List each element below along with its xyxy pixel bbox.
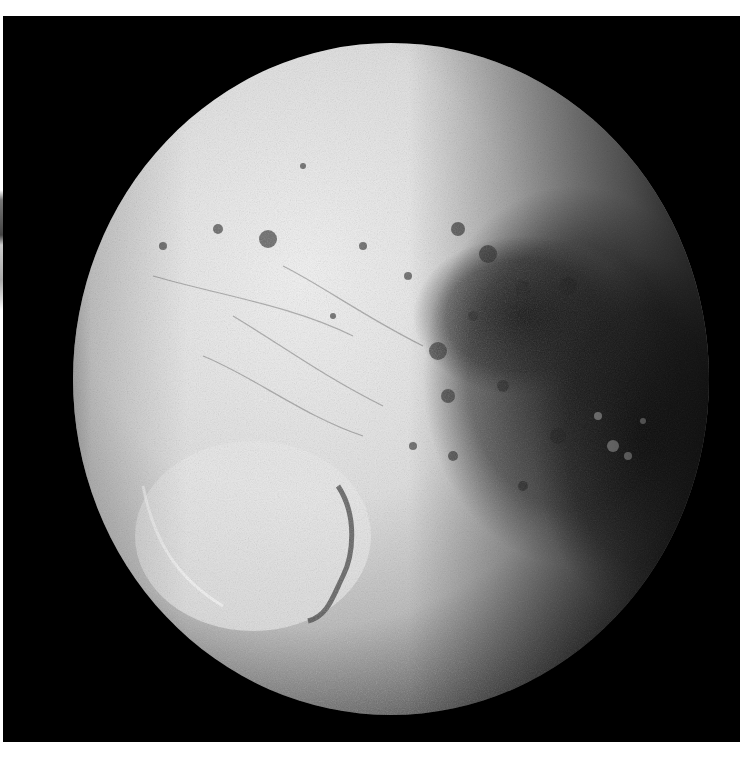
photo-frame: Cratered moon in space — [3, 16, 740, 742]
moon-photo — [3, 16, 740, 742]
